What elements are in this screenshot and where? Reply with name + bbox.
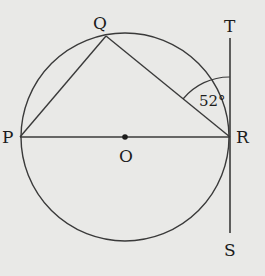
label-o: O <box>119 146 133 166</box>
label-q: Q <box>93 13 107 33</box>
label-p: P <box>2 127 13 147</box>
label-r: R <box>236 127 250 147</box>
angle-label: 52° <box>199 92 226 110</box>
chord-qr <box>106 36 230 137</box>
label-t: T <box>224 16 236 36</box>
chord-pq <box>20 36 106 137</box>
geometry-diagram: Q P R O T S 52° <box>0 0 265 276</box>
label-s: S <box>224 240 236 260</box>
center-dot <box>122 134 128 140</box>
